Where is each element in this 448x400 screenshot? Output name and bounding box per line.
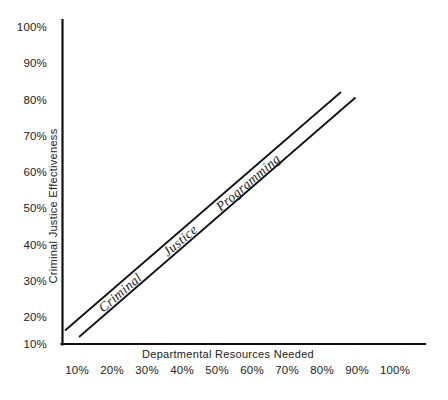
y-tick-label-60: 60% [23,166,47,178]
x-axis-title: Departmental Resources Needed [142,348,314,360]
y-tick-label-10: 10% [23,338,47,350]
y-tick-label-70: 70% [23,130,47,142]
x-tick-label-60: 60% [240,364,264,376]
x-tick-label-70: 70% [275,364,299,376]
x-tick-label-80: 80% [310,364,334,376]
x-tick-label-10: 10% [65,364,89,376]
y-tick-label-90: 90% [23,57,47,69]
criminal-justice-effectiveness-chart: 100% 90% 80% 70% 60% 50% 40% 30% 20% 10%… [0,0,448,400]
y-tick-label-20: 20% [23,311,47,323]
chart-page: 100% 90% 80% 70% 60% 50% 40% 30% 20% 10%… [0,0,448,400]
y-tick-label-100: 100% [17,21,47,33]
y-tick-label-40: 40% [23,239,47,251]
x-tick-label-100: 100% [380,364,410,376]
x-tick-label-20: 20% [100,364,124,376]
y-tick-label-80: 80% [23,94,47,106]
y-tick-label-30: 30% [23,275,47,287]
x-tick-label-50: 50% [205,364,229,376]
x-tick-label-40: 40% [170,364,194,376]
band-label-programming: Programming [212,151,283,215]
y-tick-label-50: 50% [23,202,47,214]
x-tick-label-30: 30% [135,364,159,376]
y-axis-title: Criminal Justice Effectiveness [47,128,59,283]
x-tick-label-90: 90% [345,364,369,376]
band-label-justice: Justice [160,222,200,260]
band-label-criminal: Criminal [95,270,144,315]
